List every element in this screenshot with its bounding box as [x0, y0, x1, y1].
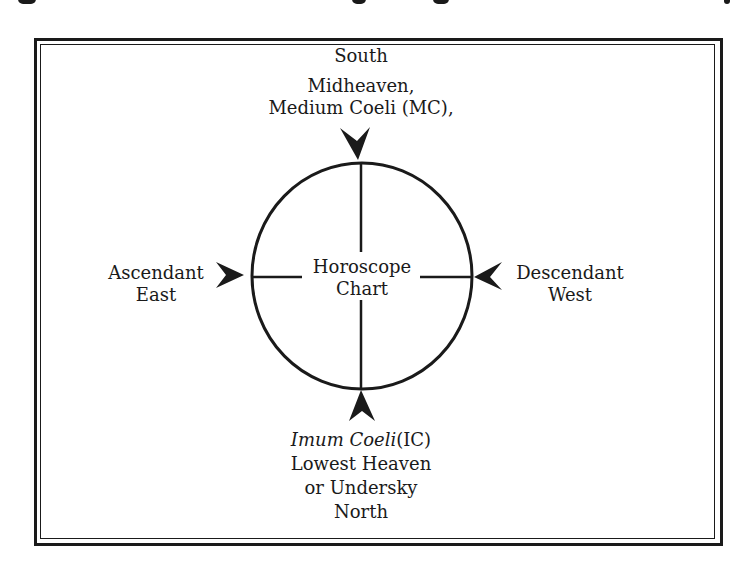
- undersky-text: or Undersky: [211, 476, 511, 500]
- ascendant-text: Ascendant: [86, 262, 226, 284]
- direction-east: East: [86, 284, 226, 306]
- medium-coeli-text: Medium Coeli (MC),: [211, 97, 511, 119]
- descendant-text: Descendant: [500, 262, 640, 284]
- midheaven-text: Midheaven,: [211, 75, 511, 97]
- center-label: Horoscope Chart: [297, 256, 427, 300]
- center-label-line1: Horoscope: [297, 256, 427, 278]
- direction-south: South: [211, 45, 511, 67]
- imum-coeli-line: Imum Coeli(IC): [211, 428, 511, 452]
- center-label-line2: Chart: [297, 278, 427, 300]
- direction-north: North: [211, 500, 511, 524]
- arrow-left-icon: [474, 262, 502, 290]
- arrow-down-icon: [340, 127, 370, 160]
- arrow-up-icon: [349, 390, 375, 421]
- lowest-heaven-text: Lowest Heaven: [211, 452, 511, 476]
- descendant-label: Descendant West: [500, 262, 640, 306]
- ic-abbr: (IC): [396, 429, 431, 450]
- midheaven-label: South Midheaven, Medium Coeli (MC),: [211, 45, 511, 119]
- imum-coeli-italic: Imum Coeli: [291, 429, 396, 450]
- imum-coeli-label: Imum Coeli(IC) Lowest Heaven or Undersky…: [211, 428, 511, 524]
- direction-west: West: [500, 284, 640, 306]
- ascendant-label: Ascendant East: [86, 262, 226, 306]
